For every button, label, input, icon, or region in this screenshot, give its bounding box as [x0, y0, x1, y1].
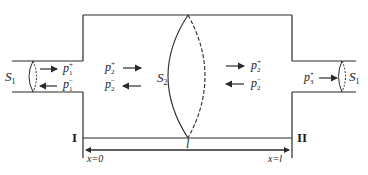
wave-arrows: [40, 66, 337, 86]
position-end-label: x=l: [267, 153, 282, 164]
length-label: l: [186, 137, 190, 151]
inlet-surface: [29, 61, 37, 92]
chamber-right-incident-label: p+2: [250, 58, 261, 74]
expansion-chamber-diagram: S1 p+1 p−1 p+2 p−2 S2 p+2 p−2 p+3 S1 I I…: [0, 0, 368, 175]
position-start-label: x=0: [86, 153, 103, 164]
inlet-surface-label: S1: [5, 69, 16, 86]
inlet-reflected-label: p−1: [62, 77, 73, 93]
outlet-surface: [339, 61, 346, 92]
middle-surface-label: S2: [157, 70, 168, 87]
middle-surface: [168, 15, 205, 138]
chamber-left-reflected-label: p−2: [104, 77, 115, 93]
chamber-right-reflected-label: p−2: [250, 76, 261, 92]
boundary-left-label: I: [72, 130, 77, 145]
boundary-right-label: II: [297, 130, 307, 145]
outlet-surface-label: S1: [349, 69, 360, 86]
outlet-transmitted-label: p+3: [303, 70, 314, 86]
inlet-incident-label: p+1: [62, 61, 73, 77]
chamber-left-incident-label: p+2: [104, 60, 115, 76]
